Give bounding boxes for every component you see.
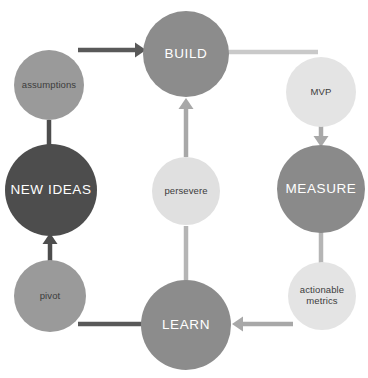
- connector-assumptions-to-build: [78, 43, 146, 58]
- node-pivot[interactable]: pivot: [14, 260, 86, 332]
- node-assumptions[interactable]: assumptions: [14, 50, 84, 120]
- node-persevere[interactable]: persevere: [152, 157, 220, 225]
- connector-persevere-to-build: [179, 98, 194, 157]
- node-label-measure: MEASURE: [282, 181, 361, 196]
- node-label-build: BUILD: [161, 46, 212, 61]
- build-measure-learn-diagram: BUILDMEASURELEARNNEW IDEASassumptionspiv…: [0, 0, 368, 378]
- arrowhead-icon: [232, 317, 243, 332]
- node-label-pivot: pivot: [36, 291, 65, 302]
- node-build[interactable]: BUILD: [143, 11, 229, 97]
- node-measure[interactable]: MEASURE: [277, 145, 365, 233]
- node-actionable-metrics[interactable]: actionable metrics: [288, 262, 356, 330]
- node-label-new-ideas: NEW IDEAS: [6, 182, 95, 197]
- arrowhead-icon: [179, 98, 194, 109]
- connector-actionable-metrics-to-learn: [232, 317, 293, 332]
- node-mvp[interactable]: MVP: [286, 57, 356, 127]
- node-label-assumptions: assumptions: [18, 80, 80, 91]
- connector-pivot-to-new-ideas: [43, 233, 58, 261]
- node-label-persevere: persevere: [160, 186, 211, 197]
- node-label-mvp: MVP: [307, 87, 336, 98]
- node-label-learn: LEARN: [158, 317, 214, 332]
- node-learn[interactable]: LEARN: [141, 280, 231, 370]
- node-label-actionable-metrics: actionable metrics: [296, 285, 348, 306]
- node-new-ideas[interactable]: NEW IDEAS: [5, 144, 97, 236]
